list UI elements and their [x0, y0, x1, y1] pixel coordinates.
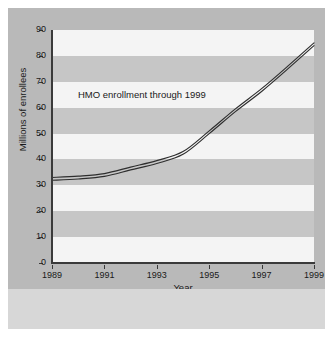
x-axis-line: [51, 262, 315, 264]
y-tick-label-20: 20: [36, 206, 46, 215]
x-tick-label-1991: 1991: [84, 270, 124, 280]
x-tick-1997: [262, 265, 263, 269]
x-tick-label-1995: 1995: [189, 270, 229, 280]
x-tick-label-1989: 1989: [32, 270, 72, 280]
chart-title: HMO enrollment through 1999: [78, 89, 206, 100]
y-axis-title: Millions of enrollees: [17, 50, 28, 170]
x-tick-label-1997: 1997: [242, 270, 282, 280]
y-tick-label-40: 40: [36, 154, 46, 163]
series-stroke-1: [52, 43, 314, 178]
x-tick-label-1999: 1999: [294, 270, 333, 280]
chart-figure: 0102030405060708090 19891991199319951997…: [0, 0, 333, 337]
y-tick-label-90: 90: [36, 25, 46, 34]
x-tick-1995: [209, 265, 210, 269]
x-tick-1989: [52, 265, 53, 269]
plot-area: [52, 30, 314, 263]
x-tick-1991: [104, 265, 105, 269]
y-tick-label-50: 50: [36, 129, 46, 138]
y-tick-label-70: 70: [36, 77, 46, 86]
series-stroke-2: [52, 46, 314, 181]
note-panel: Note: HMO enrollment does not include se…: [8, 289, 325, 329]
y-tick-label-10: 10: [36, 232, 46, 241]
x-tick-label-1993: 1993: [137, 270, 177, 280]
x-tick-1993: [157, 265, 158, 269]
y-tick-label-0: 0: [41, 258, 46, 267]
y-tick-label-60: 60: [36, 103, 46, 112]
series-hmo-enrollment: [52, 30, 314, 263]
chart-panel: 0102030405060708090 19891991199319951997…: [8, 8, 325, 289]
y-tick-label-80: 80: [36, 51, 46, 60]
y-axis-line: [51, 30, 53, 264]
x-tick-1999: [314, 265, 315, 269]
y-tick-label-30: 30: [36, 180, 46, 189]
